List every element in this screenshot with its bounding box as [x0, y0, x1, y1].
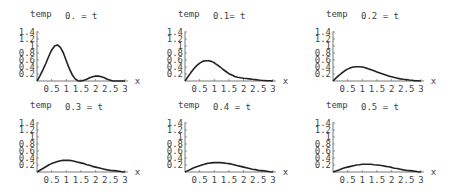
- x-tick-label: 2: [241, 175, 246, 185]
- x-tick-label: 1.5: [221, 84, 237, 94]
- plot-panel: 0.20.40.60.811.21.40.511.522.53xtemp0.2 …: [315, 9, 437, 94]
- plot-title: 0.1= t: [213, 11, 246, 21]
- y-axis-label: temp: [178, 9, 200, 19]
- plot-title: 0.3 = t: [65, 102, 103, 112]
- x-tick-label: 3: [122, 84, 127, 94]
- x-tick-label: 1: [212, 84, 217, 94]
- x-tick-label: 0.5: [192, 175, 208, 185]
- x-tick-label: 1: [64, 175, 69, 185]
- y-axis-label: temp: [326, 100, 348, 110]
- plot-title: 0.2 = t: [361, 11, 399, 21]
- x-tick-label: 3: [418, 84, 423, 94]
- x-axis-label: x: [135, 167, 141, 177]
- y-axis-label: temp: [30, 100, 52, 110]
- plot-panel: 0.20.40.60.811.21.40.511.522.53xtemp0.4 …: [167, 100, 289, 185]
- y-tick-label: 1.4: [167, 27, 183, 37]
- x-tick-label: 0.5: [44, 84, 60, 94]
- y-tick-label: 1.4: [167, 118, 183, 128]
- x-tick-label: 1.5: [221, 175, 237, 185]
- y-axis-label: temp: [178, 100, 200, 110]
- x-tick-label: 3: [418, 175, 423, 185]
- x-tick-label: 2.5: [398, 175, 414, 185]
- x-tick-label: 2: [93, 175, 98, 185]
- x-tick-label: 2: [241, 84, 246, 94]
- x-tick-label: 1: [360, 84, 365, 94]
- x-tick-label: 2.5: [250, 84, 266, 94]
- x-axis-label: x: [431, 76, 437, 86]
- x-tick-label: 1.5: [73, 84, 89, 94]
- x-axis-label: x: [283, 167, 289, 177]
- y-tick-label: 1.4: [315, 118, 331, 128]
- x-tick-label: 2: [389, 84, 394, 94]
- plot-panel: 0.20.40.60.811.21.40.511.522.53xtemp0.5 …: [315, 100, 437, 185]
- x-tick-label: 0.5: [44, 175, 60, 185]
- plot-title: 0.5 = t: [361, 102, 399, 112]
- x-tick-label: 1: [64, 84, 69, 94]
- x-tick-label: 0.5: [340, 84, 356, 94]
- x-tick-label: 1: [212, 175, 217, 185]
- y-tick-label: 1.4: [315, 27, 331, 37]
- x-tick-label: 2.5: [102, 84, 118, 94]
- x-tick-label: 3: [270, 84, 275, 94]
- plot-title: 0. = t: [65, 11, 98, 21]
- x-tick-label: 1.5: [73, 175, 89, 185]
- temperature-curve: [333, 67, 421, 81]
- x-tick-label: 2: [389, 175, 394, 185]
- x-tick-label: 0.5: [340, 175, 356, 185]
- plot-panel: 0.20.40.60.811.21.40.511.522.53xtemp0.1=…: [167, 9, 289, 94]
- y-axis-label: temp: [30, 9, 52, 19]
- x-tick-label: 3: [270, 175, 275, 185]
- x-tick-label: 3: [122, 175, 127, 185]
- plot-panel: 0.20.40.60.811.21.40.511.522.53xtemp0. =…: [19, 9, 141, 94]
- y-axis-label: temp: [326, 9, 348, 19]
- x-tick-label: 1.5: [369, 175, 385, 185]
- x-tick-label: 0.5: [192, 84, 208, 94]
- y-tick-label: 1.4: [19, 118, 35, 128]
- x-axis-label: x: [283, 76, 289, 86]
- x-tick-label: 2.5: [398, 84, 414, 94]
- temperature-curve: [185, 61, 273, 81]
- temperature-curve: [37, 45, 125, 81]
- x-tick-label: 1: [360, 175, 365, 185]
- x-tick-label: 2: [93, 84, 98, 94]
- plot-title: 0.4 = t: [213, 102, 251, 112]
- x-axis-label: x: [431, 167, 437, 177]
- y-tick-label: 1.4: [19, 27, 35, 37]
- x-tick-label: 1.5: [369, 84, 385, 94]
- x-axis-label: x: [135, 76, 141, 86]
- plot-grid: 0.20.40.60.811.21.40.511.522.53xtemp0. =…: [0, 0, 451, 195]
- x-tick-label: 2.5: [250, 175, 266, 185]
- plot-panel: 0.20.40.60.811.21.40.511.522.53xtemp0.3 …: [19, 100, 141, 185]
- x-tick-label: 2.5: [102, 175, 118, 185]
